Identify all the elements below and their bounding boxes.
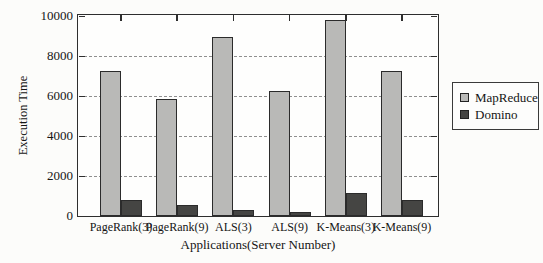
y-tick-label-8000: 8000 xyxy=(27,49,73,63)
y-tick-mark-right-6000 xyxy=(431,96,437,98)
x-tick-mark-0 xyxy=(120,15,122,21)
x-tick-mark-1 xyxy=(176,15,178,21)
y-tick-mark-4000 xyxy=(79,136,85,138)
y-tick-mark-6000 xyxy=(79,96,85,98)
bar-domino-als9 xyxy=(290,212,311,216)
bar-domino-k-means9 xyxy=(402,200,423,216)
x-category-label-5: K-Means(9) xyxy=(354,220,450,234)
legend: MapReduce Domino xyxy=(452,82,539,130)
x-tick-mark-5 xyxy=(401,15,403,21)
bar-domino-k-means3 xyxy=(346,193,367,216)
legend-entry-domino: Domino xyxy=(460,107,532,122)
legend-label-mapreduce: MapReduce xyxy=(475,90,538,105)
y-tick-label-2000: 2000 xyxy=(27,169,73,183)
bar-domino-pagerank3 xyxy=(121,200,142,216)
bar-mapreduce-k-means3 xyxy=(325,20,346,216)
y-tick-mark-2000 xyxy=(79,176,85,178)
gridline-8000 xyxy=(79,56,437,57)
y-tick-mark-10000 xyxy=(79,16,85,18)
legend-entry-mapreduce: MapReduce xyxy=(460,90,532,105)
bar-mapreduce-als3 xyxy=(212,37,233,216)
bar-mapreduce-pagerank9 xyxy=(156,99,177,216)
bar-domino-als3 xyxy=(233,210,254,216)
y-tick-mark-right-4000 xyxy=(431,136,437,138)
mapreduce-swatch-icon xyxy=(460,93,469,102)
domino-swatch-icon xyxy=(460,110,469,119)
bar-mapreduce-als9 xyxy=(269,91,290,216)
legend-label-domino: Domino xyxy=(475,107,518,122)
x-axis-title: Applications(Server Number) xyxy=(78,237,438,253)
y-tick-mark-right-2000 xyxy=(431,176,437,178)
bar-mapreduce-pagerank3 xyxy=(100,71,121,216)
y-tick-label-4000: 4000 xyxy=(27,129,73,143)
bar-mapreduce-k-means9 xyxy=(381,71,402,216)
bar-chart-figure: Execution Time 0200040006000800010000Pag… xyxy=(0,0,543,263)
y-tick-mark-right-8000 xyxy=(431,56,437,58)
y-tick-label-6000: 6000 xyxy=(27,89,73,103)
y-tick-label-10000: 10000 xyxy=(27,9,73,23)
y-tick-mark-8000 xyxy=(79,56,85,58)
y-tick-label-0: 0 xyxy=(27,209,73,223)
x-tick-mark-3 xyxy=(289,15,291,21)
y-tick-mark-right-10000 xyxy=(431,16,437,18)
bar-domino-pagerank9 xyxy=(177,205,198,216)
y-axis-title: Execution Time xyxy=(16,66,31,166)
x-tick-mark-2 xyxy=(233,15,235,21)
